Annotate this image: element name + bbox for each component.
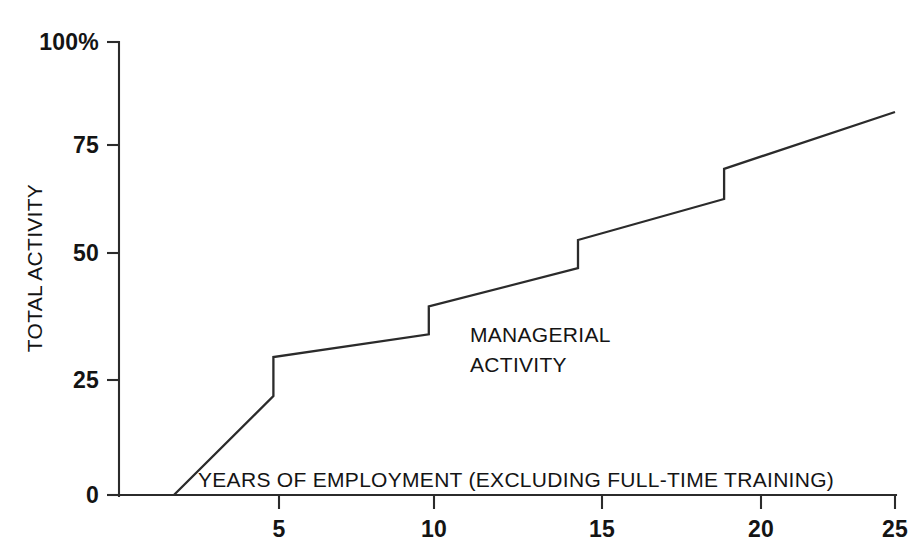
x-tick-label-5: 5: [273, 516, 286, 542]
x-tick-label-25: 25: [882, 516, 908, 542]
x-tick-label-10: 10: [421, 516, 447, 542]
managerial-activity-line-chart: 100% 75 50 25 0 5 10 15 20 25 TOTAL ACTI…: [0, 0, 924, 557]
y-axis-ticks: [107, 42, 119, 495]
x-tick-label-20: 20: [748, 516, 774, 542]
x-tick-label-15: 15: [589, 516, 615, 542]
annotation-managerial-activity-line1: MANAGERIAL: [470, 323, 611, 346]
series-line-managerial-activity: [174, 112, 895, 495]
y-tick-label-25: 25: [73, 367, 99, 393]
y-tick-label-100: 100%: [39, 29, 99, 55]
y-axis-title: TOTAL ACTIVITY: [23, 184, 46, 352]
chart-figure: 100% 75 50 25 0 5 10 15 20 25 TOTAL ACTI…: [0, 0, 924, 557]
x-axis-ticks: [279, 495, 895, 509]
annotation-managerial-activity-line2: ACTIVITY: [470, 353, 567, 376]
x-axis-title: YEARS OF EMPLOYMENT (EXCLUDING FULL-TIME…: [198, 468, 834, 491]
y-tick-label-75: 75: [73, 132, 99, 158]
y-tick-label-0: 0: [86, 482, 99, 508]
y-tick-label-50: 50: [73, 240, 99, 266]
